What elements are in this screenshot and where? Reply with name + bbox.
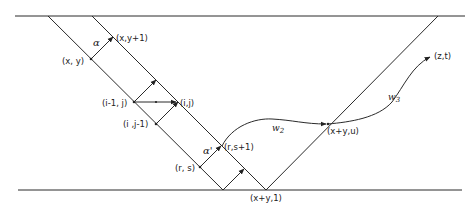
mid-arrow-1: [134, 80, 156, 102]
lower-arrow: [223, 169, 244, 190]
point-mid: [155, 101, 157, 103]
label-rs1: (r,s+1): [224, 142, 254, 152]
lattice-path-diagram: (x, y) (x,y+1) α (i-1, j) (i,j) (i ,j-1)…: [0, 0, 476, 218]
label-xy1: (x,y+1): [116, 33, 148, 43]
point-xy: [90, 58, 93, 61]
label-xpy1: (x+y,1): [250, 193, 282, 203]
lower-zig: [244, 168, 266, 190]
label-im1j: (i-1, j): [102, 98, 127, 108]
point-im1j: [133, 101, 136, 104]
label-w2: w2: [272, 123, 285, 135]
label-xpyu: (x+y,u): [327, 126, 359, 136]
point-ijm1: [155, 123, 158, 126]
path-w3: [328, 57, 430, 124]
label-alpha: α: [93, 37, 100, 48]
label-ij: (i,j): [180, 98, 194, 108]
diamond-upper-right: [156, 80, 178, 102]
label-zt: (z,t): [434, 51, 451, 61]
diamond-lower-left: [156, 102, 178, 124]
label-rs: (r, s): [175, 163, 195, 173]
label-alpha-prime: α': [203, 145, 213, 156]
label-ijm1: (i ,j-1): [123, 119, 148, 129]
label-xy: (x, y): [62, 56, 84, 66]
diagonal-line-right: [266, 16, 438, 190]
label-w3: w3: [388, 92, 401, 104]
point-rs: [199, 166, 202, 169]
